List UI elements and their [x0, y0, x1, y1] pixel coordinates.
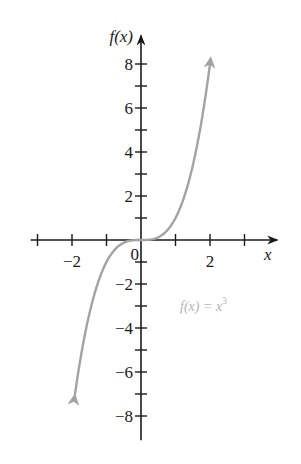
- y-tick-label: 2: [125, 187, 134, 206]
- y-tick-label: −6: [115, 363, 133, 382]
- cubic-curve: [75, 59, 211, 396]
- y-tick-label: −8: [115, 407, 133, 426]
- cubic-function-graph: −228642−2−4−6−80 x f(x) f(x) = x3: [0, 0, 301, 464]
- x-axis-label: x: [263, 245, 272, 264]
- y-tick-label: 8: [125, 55, 134, 74]
- y-tick-label: 6: [125, 99, 134, 118]
- y-tick-label: −2: [115, 275, 133, 294]
- y-axis-label: f(x): [109, 27, 133, 46]
- origin-label: 0: [131, 245, 140, 264]
- y-tick-label: −4: [115, 319, 134, 338]
- y-tick-label: 4: [125, 143, 134, 162]
- function-annotation: f(x) = x3: [180, 295, 227, 315]
- x-tick-label: 2: [206, 252, 215, 271]
- x-tick-label: −2: [63, 252, 81, 271]
